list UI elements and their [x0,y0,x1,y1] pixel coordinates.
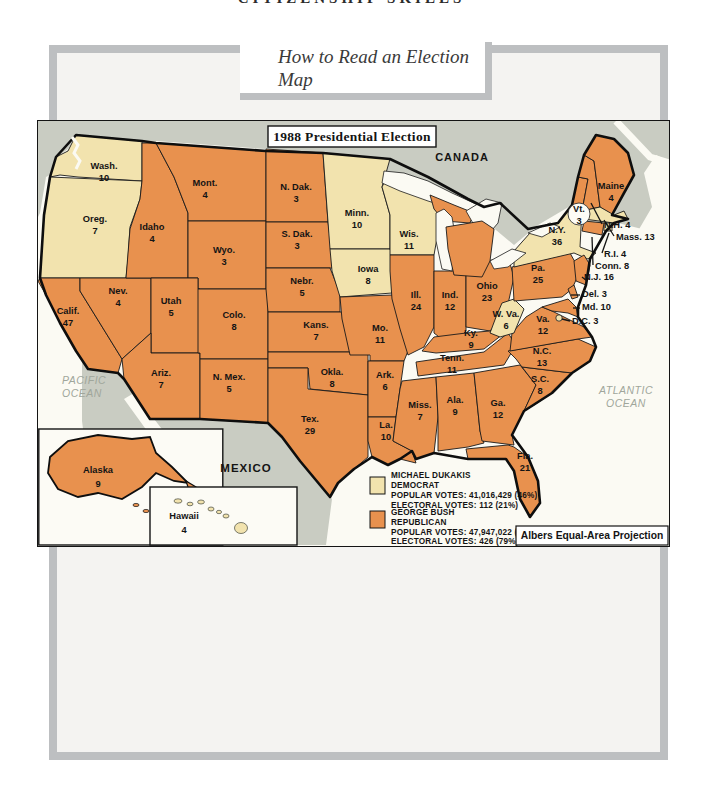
callout-label-nj: N.J. 16 [584,272,614,282]
state-mn [323,153,390,249]
state-label-ks: Kans. [303,320,328,330]
state-votes-oh: 23 [482,293,492,303]
state-label-in: Ind. [442,290,459,300]
legend-swatch-democrat [370,477,385,494]
state-label-ut: Utah [161,296,182,306]
state-label-ak: Alaska [83,465,114,475]
state-label-nm: N. Mex. [213,372,246,382]
callout-label-de: Del. 3 [582,289,607,299]
state-label-sd: S. Dak. [281,229,312,239]
state-label-ca: Calif. [57,306,80,316]
legend-text-democrat: MICHAEL DUKAKIS [391,471,471,480]
state-label-tx: Tex. [301,414,319,424]
state-votes-pa: 25 [533,275,543,285]
callout-label-md: Md. 10 [582,302,611,312]
state-votes-ok: 8 [329,379,334,389]
legend-text-democrat: POPULAR VOTES: 41,016,429 (46%) [391,491,537,500]
state-label-al: Ala. [446,395,463,405]
callout-label-nh: N.H. 4 [604,220,631,230]
textbook-page: { "page": { "kicker": "CITIZENSHIP SKILL… [0,0,703,797]
state-label-ar: Ark. [376,370,394,380]
hawaiian-island [208,507,214,511]
hawaiian-island [198,500,205,504]
state-votes-tn: 11 [447,365,457,375]
state-votes-ky: 9 [468,340,473,350]
page-kicker: CITIZENSHIP SKILLS [0,0,703,7]
state-label-tn: Tenn. [440,353,464,363]
state-votes-ut: 5 [168,308,173,318]
legend-swatch-republican [370,511,385,528]
state-votes-az: 7 [158,380,163,390]
hawaiian-island [235,523,248,534]
state-label-pa: Pa. [531,263,545,273]
legend-text-republican: ELECTORAL VOTES: 426 (79%) [391,537,519,546]
state-votes-nm: 5 [226,384,231,394]
state-votes-ks: 7 [313,332,318,342]
state-label-oh: Ohio [476,281,497,291]
state-votes-ga: 12 [493,410,503,420]
state-label-az: Ariz. [151,368,171,378]
state-votes-ms: 7 [417,412,422,422]
atlantic-ocean-label: OCEAN [606,397,646,409]
state-dc [556,315,562,321]
mexico-label: MEXICO [220,462,271,474]
state-label-ne: Nebr. [290,276,313,286]
state-votes-id: 4 [149,234,155,244]
state-votes-ia: 8 [365,276,370,286]
map-title: 1988 Presidential Election [273,129,431,144]
state-votes-mn: 10 [352,220,362,230]
state-votes-al: 9 [452,407,457,417]
state-label-ia: Iowa [358,264,379,274]
state-label-hi: Hawaii [169,511,198,521]
state-votes-hi: 4 [181,525,187,535]
state-label-id: Idaho [140,222,165,232]
state-votes-va: 12 [538,326,548,336]
state-votes-me: 4 [608,193,614,203]
state-votes-il: 24 [411,302,422,312]
state-label-nd: N. Dak. [280,182,312,192]
callout-label-ri: R.I. 4 [604,249,627,259]
state-label-ny: N.Y. [548,225,565,235]
state-label-ga: Ga. [491,398,506,408]
callout-label-ma: Mass. 13 [616,232,655,242]
state-votes-nc: 13 [537,358,547,368]
state-label-mt: Mont. [193,178,218,188]
aleutian-island [133,503,139,506]
hawaiian-island [187,502,193,506]
state-label-wi: Wis. [399,229,418,239]
state-wy [188,221,266,289]
hawaiian-island [216,510,221,513]
hawaiian-island [174,499,182,503]
state-votes-fl: 21 [520,463,530,473]
legend-text-republican: REPUBLICAN [391,518,447,527]
projection-note: Albers Equal-Area Projection [521,530,663,541]
state-votes-ca: 47 [63,318,73,328]
state-votes-mt: 4 [202,190,208,200]
state-ks [268,312,354,352]
state-votes-wv: 6 [503,321,508,331]
election-map-panel: Wash.10Oreg.7Calif.47Nev.4Idaho4Mont.4Wy… [37,120,670,547]
state-votes-in: 12 [445,302,455,312]
state-votes-vt: 3 [576,216,581,226]
state-votes-ne: 5 [299,288,304,298]
callout-label-ct: Conn. 8 [595,261,629,271]
state-votes-tx: 29 [305,426,315,436]
legend-text-democrat: DEMOCRAT [391,481,439,490]
lesson-title: How to Read an Election Map [240,42,492,100]
aleutian-island [143,509,149,512]
state-label-il: Ill. [411,290,421,300]
state-votes-or: 7 [92,226,97,236]
state-votes-sd: 3 [294,241,299,251]
pacific-ocean-label: OCEAN [62,387,102,399]
state-label-co: Colo. [222,310,245,320]
atlantic-ocean-label: ATLANTIC [598,384,653,396]
state-votes-co: 8 [231,322,236,332]
state-votes-nv: 4 [115,298,121,308]
state-label-la: La. [379,420,392,430]
state-label-ok: Okla. [321,367,344,377]
state-label-mo: Mo. [372,323,388,333]
state-label-vt: Vt. [573,204,585,214]
state-label-fl: Fla. [517,451,533,461]
state-votes-mo: 11 [375,335,385,345]
state-label-wv: W. Va. [493,309,520,319]
